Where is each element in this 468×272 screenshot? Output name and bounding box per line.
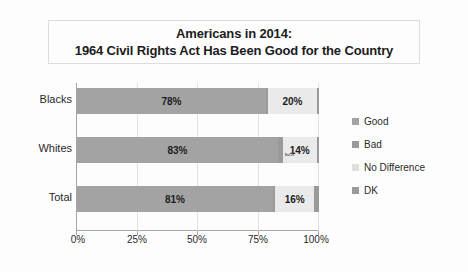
bar-row-total: 81% 16% (77, 186, 319, 212)
category-axis-labels: Blacks Whites Total (0, 83, 72, 231)
bar-segment-good-blacks[interactable]: 78% (77, 88, 266, 114)
x-axis-tick-labels: 0% 25% 50% 75% 100% (76, 234, 319, 250)
chart-title-line-2: 1964 Civil Rights Act Has Been Good for … (75, 42, 393, 59)
category-label-whites: Whites (0, 142, 72, 154)
legend-swatch-dk-icon (352, 187, 359, 194)
x-tick-label-0: 0% (71, 234, 85, 245)
legend-swatch-bad-icon (352, 141, 359, 148)
legend-label-bad: Bad (364, 139, 382, 150)
category-label-total: Total (0, 191, 72, 203)
chart-figure: Americans in 2014: 1964 Civil Rights Act… (0, 0, 468, 272)
x-tick-label-100: 100% (303, 234, 329, 245)
legend-item-good[interactable]: Good (352, 110, 464, 133)
legend-label-dk: DK (364, 185, 378, 196)
legend-swatch-good-icon (352, 118, 359, 125)
bar-row-blacks: 78% 20% (77, 88, 319, 114)
bar-segment-good-whites[interactable]: 83% (77, 137, 278, 163)
bar-value-nodifference-blacks: 20% (282, 96, 302, 107)
bar-segment-good-total[interactable]: 81% (77, 186, 273, 212)
bar-value-good-blacks: 78% (161, 96, 181, 107)
legend-item-dk[interactable]: DK (352, 179, 464, 202)
legend-item-no-difference[interactable]: No Difference (352, 156, 464, 179)
bar-segment-dk-total[interactable] (314, 186, 319, 212)
legend-item-bad[interactable]: Bad (352, 133, 464, 156)
x-tick-label-50: 50% (187, 234, 207, 245)
chart-title-line-1: Americans in 2014: (176, 26, 292, 42)
overlapping-micro-label-whites: Bad 2% (285, 153, 295, 157)
chart-title-box: Americans in 2014: 1964 Civil Rights Act… (48, 20, 420, 64)
bar-segment-nodifference-total[interactable]: 16% (275, 186, 314, 212)
bar-value-nodifference-total: 16% (285, 194, 305, 205)
plot-area: 78% 20% 83% 14% Bad 2% 81% (76, 83, 319, 231)
legend-swatch-no-difference-icon (352, 164, 359, 171)
legend-label-no-difference: No Difference (364, 162, 425, 173)
legend-label-good: Good (364, 116, 388, 127)
bar-row-whites: 83% 14% Bad 2% (77, 137, 319, 163)
bar-value-good-total: 81% (165, 194, 185, 205)
category-label-blacks: Blacks (0, 93, 72, 105)
bar-segment-nodifference-whites[interactable]: 14% Bad 2% (283, 137, 317, 163)
bar-value-good-whites: 83% (167, 145, 187, 156)
bar-segment-dk-blacks[interactable] (317, 88, 319, 114)
x-tick-label-25: 25% (127, 234, 147, 245)
x-tick-label-75: 75% (248, 234, 268, 245)
bar-segment-dk-whites[interactable] (317, 137, 319, 163)
chart-legend: Good Bad No Difference DK (352, 110, 464, 202)
bar-segment-nodifference-blacks[interactable]: 20% (268, 88, 316, 114)
